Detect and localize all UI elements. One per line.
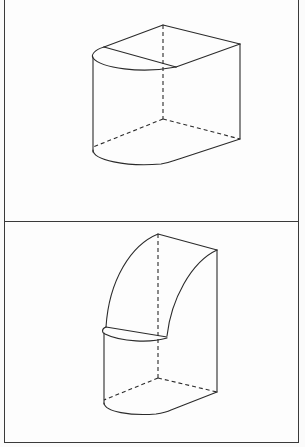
rounded-block-drawing [5,0,300,222]
edge-bottom-front [93,139,240,165]
hidden-edge-bottom-left [104,378,158,400]
edge-top-back-left [104,25,163,47]
edge-bottom-front [104,392,217,415]
hidden-edge-bottom-left [93,119,163,147]
visible-edges [92,25,240,165]
edge-top-arc [92,47,176,70]
panel-bottom: Isometric solid: rounded-front block wit… [4,222,299,443]
figure-sheet: Isometric solid: rectangular block with … [0,0,305,447]
curved-block-drawing [5,222,300,443]
edge-top-front-right [176,44,240,67]
hidden-edge-bottom-right [158,378,217,392]
panel-top: Isometric solid: rectangular block with … [4,0,299,222]
edge-inner-curve [167,250,217,336]
edge-step-arc [103,327,168,341]
edge-outer-curve [106,234,158,327]
edge-top [158,234,217,250]
hidden-edges [104,234,217,400]
hidden-edge-bottom-right [163,119,240,139]
edge-top-back-right [163,25,240,44]
edge-top-tangent-line [104,47,176,67]
